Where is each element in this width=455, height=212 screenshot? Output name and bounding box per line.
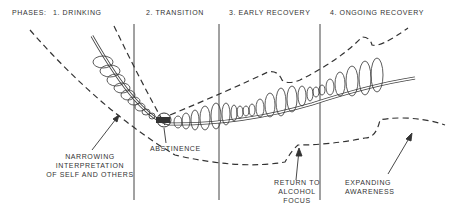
phase-3-label: 3. EARLY RECOVERY	[229, 8, 310, 17]
narrowing-annotation: NARROWING INTERPRETATION OF SELF AND OTH…	[30, 152, 150, 179]
phases-label: PHASES:	[12, 8, 47, 17]
arrow-head-expanding	[406, 133, 412, 141]
narrowing-line-1: NARROWING	[30, 152, 150, 161]
return-line-1: RETURN TO	[262, 178, 332, 187]
arrow-head-return	[296, 148, 302, 156]
upper-expanding-dashed	[170, 28, 408, 115]
phase-2-label: 2. TRANSITION	[146, 8, 204, 17]
phase-1-label: 1. DRINKING	[53, 8, 102, 17]
abstinence-label: ABSTINENCE	[150, 144, 201, 153]
arrow-expanding	[388, 135, 411, 174]
return-focus-annotation: RETURN TO ALCOHOL FOCUS	[262, 178, 332, 205]
spiral-coils-recovery	[174, 58, 383, 130]
narrowing-line-3: OF SELF AND OTHERS	[30, 170, 150, 179]
phase-4-label: 4. ONGOING RECOVERY	[330, 8, 424, 17]
abstinence-knot	[156, 117, 170, 123]
leader-abstinence	[164, 128, 166, 143]
narrowing-line-2: INTERPRETATION	[30, 161, 150, 170]
recovery-phases-diagram: PHASES: 1. DRINKING 2. TRANSITION 3. EAR…	[0, 0, 455, 212]
return-line-2: ALCOHOL	[262, 187, 332, 196]
expanding-line-2: AWARENESS	[345, 187, 395, 196]
expanding-line-1: EXPANDING	[345, 178, 395, 187]
lower-boundary-dashed	[30, 30, 445, 165]
expanding-annotation: EXPANDING AWARENESS	[345, 178, 395, 196]
return-line-3: FOCUS	[262, 196, 332, 205]
